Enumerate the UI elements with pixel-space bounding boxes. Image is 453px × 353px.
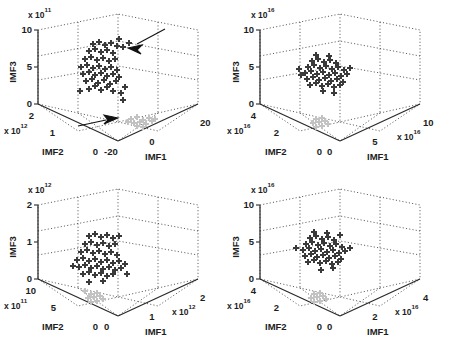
yaxis-label-bl: IMF2 [42,321,64,332]
ztick-0-bl: 0 [27,273,32,284]
marker-group-light-tr [310,115,331,130]
ztick-0-tl: 0 [27,98,32,109]
ztick-1-br: 5 [249,236,255,247]
yexponent-tr: x 1016 [227,122,251,137]
panel-svg-top-left: 10 5 0 x 1011 IMF3 2 1 0 x 1012 IMF2 -20… [0,0,226,176]
xexponent-bl: x 1012 [172,303,196,318]
ytick-2-bl: 10 [25,285,36,296]
ytick-1-tr: 2 [274,127,279,138]
ztick-2-bl: 2 [27,199,32,210]
xaxis-label-br: IMF1 [367,326,389,337]
ztick-0-br: 0 [249,273,254,284]
zexponent-tr: x 1016 [251,6,275,21]
xaxis-label-tr: IMF1 [367,151,389,162]
ztick-0-tr: 0 [249,98,254,109]
zexponent-tl: x 1011 [28,6,52,21]
ytick-1-br: 2 [274,302,279,313]
ztick-2-tl: 10 [21,24,32,35]
xtick-0-tr: 0 [327,146,332,157]
data-markers-tr [296,52,353,130]
panel-svg-top-right: 10 5 0 x 1016 IMF3 4 2 0 x 1016 IMF2 0 5… [227,0,453,176]
zaxis-label-tr: IMF3 [230,61,241,83]
marker-group-light-br [308,290,329,305]
xaxis-label-bl: IMF1 [145,326,167,337]
ytick-0-bl: 0 [93,321,98,332]
marker-group-dark-bl [70,231,130,285]
yexponent-bl: x 1011 [4,297,28,312]
xtick-0-tl: -20 [104,146,118,157]
yaxis-label-br: IMF2 [265,321,287,332]
ztick-1-tr: 5 [249,61,255,72]
ytick-2-tl: 2 [29,110,34,121]
xtick-2-tl: 20 [200,117,211,128]
data-markers-bl [70,231,130,305]
xtick-0-br: 0 [327,321,332,332]
ytick-1-tl: 1 [50,127,56,138]
ztick-1-tl: 5 [27,61,33,72]
ytick-1-bl: 5 [51,302,57,313]
panel-svg-bottom-left: 2 1 0 x 1012 IMF3 10 5 0 x 1011 IMF2 0 1… [0,177,226,353]
xtick-2-tr: 10 [423,117,434,128]
marker-group-dark-tl [77,36,132,103]
scatter-panel-top-left: 10 5 0 x 1011 IMF3 2 1 0 x 1012 IMF2 -20… [0,0,226,176]
data-markers-br [293,229,353,305]
arrow-to-light-cluster-icon [78,115,118,126]
xtick-2-bl: 2 [200,292,205,303]
zaxis-label-bl: IMF3 [7,236,18,258]
arrow-to-outlier-dark-icon [128,29,165,54]
xtick-1-tr: 5 [372,136,378,147]
yexponent-tl: x 1012 [4,122,28,137]
ytick-0-br: 0 [317,321,322,332]
ytick-2-br: 4 [251,285,257,296]
ytick-0-tl: 0 [93,146,98,157]
scatter-panel-bottom-right: 10 5 0 x 1016 IMF3 4 2 0 x 1016 IMF2 0 2… [227,177,453,353]
xtick-1-bl: 1 [149,311,155,322]
xaxis-label-tl: IMF1 [145,151,167,162]
ytick-0-tr: 0 [317,146,322,157]
marker-group-light-tl [125,114,158,130]
xtick-2-br: 4 [423,292,429,303]
axis-text-bl: 2 1 0 x 1012 IMF3 10 5 0 x 1011 IMF2 0 1… [4,181,205,338]
zaxis-label-tl: IMF3 [7,61,18,83]
ztick-1-bl: 1 [27,236,33,247]
ztick-2-tr: 10 [243,24,254,35]
figure-root: 10 5 0 x 1011 IMF3 2 1 0 x 1012 IMF2 -20… [0,0,453,353]
zaxis-label-br: IMF3 [230,236,241,258]
xtick-0-bl: 0 [104,321,109,332]
xexponent-tr: x 1016 [397,128,421,143]
yaxis-label-tl: IMF2 [42,146,64,157]
yaxis-label-tr: IMF2 [265,146,287,157]
panel-svg-bottom-right: 10 5 0 x 1016 IMF3 4 2 0 x 1016 IMF2 0 2… [227,177,453,353]
marker-group-light-bl [82,288,106,305]
zexponent-bl: x 1012 [28,181,52,196]
marker-group-dark-br [293,229,353,273]
zexponent-br: x 1016 [251,181,275,196]
scatter-panel-bottom-left: 2 1 0 x 1012 IMF3 10 5 0 x 1011 IMF2 0 1… [0,177,226,353]
yexponent-br: x 1016 [227,297,251,312]
ytick-2-tr: 4 [251,110,257,121]
marker-group-dark-tr [296,52,353,96]
scatter-panel-top-right: 10 5 0 x 1016 IMF3 4 2 0 x 1016 IMF2 0 5… [227,0,453,176]
ztick-2-br: 10 [243,199,254,210]
xexponent-br: x 1016 [395,303,419,318]
xtick-1-tl: 0 [149,136,154,147]
xtick-1-br: 2 [372,311,377,322]
